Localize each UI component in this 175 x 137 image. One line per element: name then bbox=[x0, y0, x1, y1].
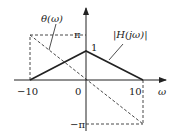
tick-one: 1 bbox=[91, 42, 97, 53]
x-axis-label: ω bbox=[158, 86, 166, 97]
tick-neg10: −10 bbox=[17, 86, 38, 97]
tick-10: 10 bbox=[129, 86, 142, 97]
magnitude-label: |H(jω)| bbox=[113, 29, 148, 41]
tick-neg-pi: −π bbox=[70, 119, 85, 130]
frequency-response-chart: θ(ω) |H(jω)| π 1 −π −10 0 10 ω bbox=[0, 0, 175, 137]
theta-label: θ(ω) bbox=[41, 13, 63, 24]
tick-pi: π bbox=[74, 29, 81, 40]
theta-leader-line bbox=[49, 24, 56, 50]
mag-leader-line bbox=[109, 44, 123, 60]
tick-zero: 0 bbox=[75, 86, 81, 97]
